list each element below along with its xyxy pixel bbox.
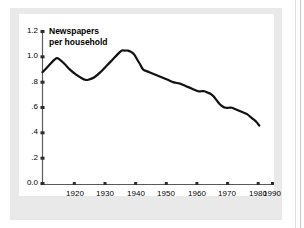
y-tick-label: .4 [18,127,38,136]
y-tick-label: .6 [18,102,38,111]
y-tick-label: 0.0 [16,178,38,187]
y-tick-label: 1.0 [18,51,38,60]
chart-figure: Newspapers per household [0,0,304,228]
y-tick-label: .2 [18,153,38,162]
y-tick-label: 1.2 [18,26,38,35]
y-tick-label: .8 [18,77,38,86]
x-tick-label: 1940 [120,189,152,198]
x-tick-label: 1990 [256,189,288,198]
x-tick-label: 1920 [59,189,91,198]
x-tick-label: 1950 [150,189,182,198]
x-tick-label: 1970 [211,189,243,198]
data-series-line [43,50,260,125]
x-tick-label: 1930 [89,189,121,198]
x-tick-label: 1960 [181,189,213,198]
